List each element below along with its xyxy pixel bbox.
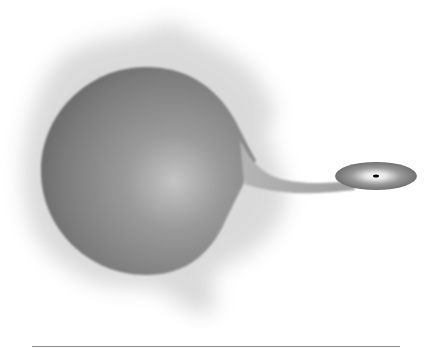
compact-object: [373, 175, 379, 178]
binary-system-illustration: [0, 0, 437, 350]
horizontal-rule: [32, 346, 400, 347]
